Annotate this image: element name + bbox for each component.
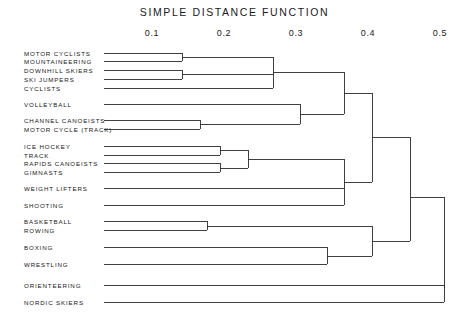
dendrogram-figure: SIMPLE DISTANCE FUNCTION 0.10.20.30.40.5…: [0, 0, 469, 319]
dendrogram-tree: [0, 0, 469, 319]
